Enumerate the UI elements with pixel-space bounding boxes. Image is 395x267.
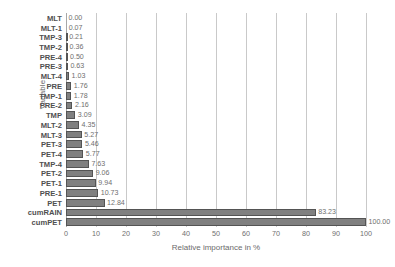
bar-row: PET-29.06 (66, 169, 366, 179)
bar-value-label: 2.16 (75, 101, 89, 109)
bar-row: cumPET100.00 (66, 217, 366, 227)
bar (66, 92, 71, 100)
bar-value-label: 1.03 (72, 72, 86, 80)
bar-row: PET-19.94 (66, 178, 366, 188)
bar-row: PRE-110.73 (66, 188, 366, 198)
bar-value-label: 0.63 (70, 62, 84, 70)
bar-value-label: 3.09 (78, 111, 92, 119)
x-tick-label: 10 (92, 229, 100, 238)
bar-value-label: 0.50 (70, 53, 84, 61)
category-label: PRE-3 (40, 62, 62, 71)
bar-rows: MLT0.00MLT-10.07TMP-30.21TMP-20.36PRE-40… (66, 13, 366, 227)
category-label: TMP-4 (39, 159, 62, 168)
category-label: PRE-1 (40, 188, 62, 197)
bar (66, 121, 79, 129)
bar-value-label: 1.76 (74, 82, 88, 90)
x-axis-ticks: 0102030405060708090100 (66, 229, 366, 241)
x-tick-label: 100 (360, 229, 372, 238)
x-tick-label: 30 (152, 229, 160, 238)
bar-row: MLT-41.03 (66, 71, 366, 81)
bar-value-label: 9.06 (96, 169, 110, 177)
bar-row: PRE-30.63 (66, 62, 366, 72)
bar-value-label: 5.27 (84, 131, 98, 139)
bar-value-label: 4.35 (82, 121, 96, 129)
bar-value-label: 0.36 (70, 43, 84, 51)
bar-row: TMP-11.78 (66, 91, 366, 101)
bar-row: PET-45.77 (66, 149, 366, 159)
bar-row: MLT-35.27 (66, 130, 366, 140)
bar-value-label: 10.73 (101, 189, 119, 197)
bar-row: TMP-30.21 (66, 32, 366, 42)
bar (66, 150, 83, 158)
category-label: cumRAIN (28, 208, 62, 217)
bar-row: PRE1.76 (66, 81, 366, 91)
bar (66, 140, 82, 148)
bar (66, 33, 68, 41)
bar-row: PET12.84 (66, 198, 366, 208)
bar-row: PRE-22.16 (66, 101, 366, 111)
plot-area: MLT0.00MLT-10.07TMP-30.21TMP-20.36PRE-40… (66, 13, 366, 227)
bar-value-label: 5.46 (85, 140, 99, 148)
category-label: PET-1 (41, 179, 62, 188)
category-label: PET-3 (41, 140, 62, 149)
bar (66, 209, 316, 217)
x-axis-title: Relative importance in % (66, 243, 366, 252)
bar (66, 63, 68, 71)
bar (66, 72, 69, 80)
bar-row: MLT-24.35 (66, 120, 366, 130)
bar (66, 43, 68, 51)
bar (66, 170, 93, 178)
category-label: TMP (46, 111, 62, 120)
relative-importance-bar-chart: Variable MLT0.00MLT-10.07TMP-30.21TMP-20… (0, 0, 395, 267)
bar-value-label: 12.84 (107, 199, 125, 207)
bar-value-label: 0.00 (69, 14, 83, 22)
bar (66, 53, 68, 61)
category-label: TMP-2 (39, 43, 62, 52)
x-tick-label: 60 (242, 229, 250, 238)
category-label: PET-2 (41, 169, 62, 178)
category-label: PRE (46, 81, 62, 90)
bar-value-label: 7.63 (91, 160, 105, 168)
x-tick-label: 50 (212, 229, 220, 238)
bar-value-label: 100.00 (369, 218, 391, 226)
bar-value-label: 0.07 (69, 24, 83, 32)
category-label: MLT-1 (41, 23, 62, 32)
category-label: MLT-3 (41, 130, 62, 139)
x-tick-label: 80 (302, 229, 310, 238)
x-tick-label: 0 (64, 229, 68, 238)
bar-row: TMP-47.63 (66, 159, 366, 169)
x-tick-label: 70 (272, 229, 280, 238)
category-label: TMP-1 (39, 91, 62, 100)
bar (66, 189, 98, 197)
bar-row: MLT0.00 (66, 13, 366, 23)
bar-row: PET-35.46 (66, 139, 366, 149)
category-label: PRE-4 (40, 52, 62, 61)
bar-value-label: 5.77 (86, 150, 100, 158)
bar-row: PRE-40.50 (66, 52, 366, 62)
bar (66, 111, 75, 119)
bar-value-label: 0.21 (69, 33, 83, 41)
bar-value-label: 9.94 (98, 179, 112, 187)
category-label: TMP-3 (39, 33, 62, 42)
category-label: cumPET (32, 218, 62, 227)
x-tick-label: 90 (332, 229, 340, 238)
category-label: MLT (47, 13, 62, 22)
bar-row: TMP-20.36 (66, 42, 366, 52)
bar (66, 131, 82, 139)
bar (66, 218, 366, 226)
x-tick-label: 20 (122, 229, 130, 238)
bar-row: MLT-10.07 (66, 23, 366, 33)
category-label: MLT-2 (41, 120, 62, 129)
bar (66, 102, 72, 110)
bar-value-label: 83.23 (318, 208, 336, 216)
bar-value-label: 1.78 (74, 92, 88, 100)
bar-row: cumRAIN83.23 (66, 208, 366, 218)
x-tick-label: 40 (182, 229, 190, 238)
category-label: MLT-4 (41, 72, 62, 81)
bar (66, 160, 89, 168)
bar (66, 82, 71, 90)
bar (66, 179, 96, 187)
bar-row: TMP3.09 (66, 110, 366, 120)
category-label: PET (47, 198, 62, 207)
bar (66, 199, 105, 207)
